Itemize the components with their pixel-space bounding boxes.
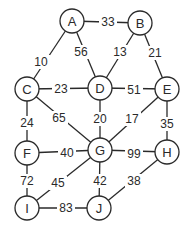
node-a: A — [60, 9, 84, 33]
edge-weight-label: 65 — [50, 111, 68, 125]
svg-text:24: 24 — [20, 116, 34, 130]
edge-weight-label: 23 — [52, 82, 70, 96]
node-label: I — [25, 201, 29, 216]
edge-weight-label: 56 — [72, 45, 90, 59]
svg-text:13: 13 — [113, 45, 127, 59]
svg-text:40: 40 — [60, 146, 74, 160]
svg-text:21: 21 — [148, 46, 162, 60]
edge-weight-label: 20 — [91, 112, 109, 126]
svg-text:45: 45 — [51, 176, 65, 190]
node-f: F — [15, 141, 39, 165]
edge-weight-label: 10 — [32, 55, 50, 69]
node-label: B — [136, 16, 145, 31]
svg-text:33: 33 — [101, 15, 115, 29]
svg-text:56: 56 — [74, 45, 88, 59]
edge-weight-label: 99 — [125, 147, 143, 161]
edge-weight-label: 83 — [57, 201, 75, 215]
edge-weight-label: 45 — [49, 176, 67, 190]
svg-text:10: 10 — [34, 55, 48, 69]
node-g: G — [88, 138, 112, 162]
node-label: G — [95, 143, 105, 158]
node-e: E — [155, 77, 179, 101]
edge-weight-label: 42 — [91, 174, 109, 188]
svg-text:23: 23 — [54, 82, 68, 96]
svg-text:35: 35 — [160, 117, 174, 131]
node-j: J — [87, 196, 111, 220]
edge-weight-label: 13 — [111, 45, 129, 59]
edge-weight-label: 17 — [123, 112, 141, 126]
graph-diagram: 33561321102351246520173540997245423883 A… — [0, 0, 193, 229]
edge-weight-label: 72 — [18, 174, 36, 188]
node-label: H — [162, 145, 171, 160]
svg-text:99: 99 — [127, 147, 141, 161]
svg-text:38: 38 — [127, 174, 141, 188]
node-i: I — [15, 196, 39, 220]
edge-weight-label: 33 — [99, 15, 117, 29]
edge-weight-label: 24 — [18, 116, 36, 130]
node-b: B — [128, 11, 152, 35]
svg-text:83: 83 — [59, 201, 73, 215]
edge-weight-label: 38 — [125, 174, 143, 188]
node-c: C — [15, 77, 39, 101]
svg-text:42: 42 — [93, 174, 107, 188]
edge-weight-label: 51 — [125, 83, 143, 97]
svg-text:51: 51 — [127, 83, 141, 97]
svg-text:65: 65 — [52, 111, 66, 125]
node-label: A — [68, 14, 77, 29]
node-label: D — [95, 81, 104, 96]
edge-weight-label: 40 — [58, 146, 76, 160]
svg-text:20: 20 — [93, 112, 107, 126]
node-d: D — [88, 76, 112, 100]
node-label: C — [22, 82, 31, 97]
edge-weight-labels-layer: 33561321102351246520173540997245423883 — [18, 15, 176, 215]
node-label: E — [163, 82, 172, 97]
node-h: H — [155, 140, 179, 164]
edge-weight-label: 21 — [146, 46, 164, 60]
svg-text:72: 72 — [20, 174, 34, 188]
edge-weight-label: 35 — [158, 117, 176, 131]
node-label: F — [23, 146, 31, 161]
node-label: J — [96, 201, 103, 216]
svg-text:17: 17 — [125, 112, 139, 126]
